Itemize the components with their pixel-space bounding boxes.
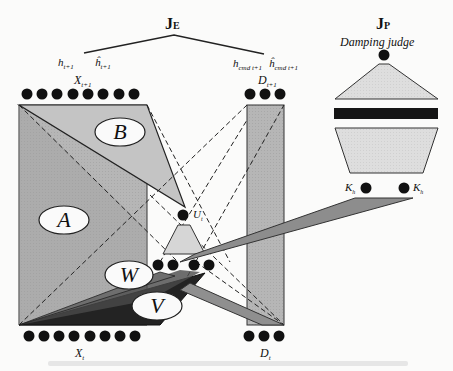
je-connector <box>84 35 264 54</box>
k-left-label: Kh <box>345 182 355 195</box>
h-label-1: ht+1 <box>58 57 74 71</box>
k-node-right <box>399 183 410 194</box>
node-u-t <box>178 210 189 221</box>
k-right-label: Kh <box>413 182 423 195</box>
u-triangle <box>163 225 205 254</box>
network-diagram <box>0 0 453 371</box>
k-wedge <box>180 198 413 262</box>
region-w-label: W <box>120 264 138 286</box>
region-a-label: A <box>57 209 70 231</box>
h-cmd-label: hcmd t+1 <box>233 58 262 72</box>
damping-node <box>379 50 390 61</box>
d-next-label: Dt+1 <box>258 74 277 89</box>
nodes-x-t <box>24 331 141 342</box>
h-hat-label-1: ĥt+1 <box>95 57 111 71</box>
x-next-label: Xt+1 <box>74 74 92 89</box>
d-column-block <box>247 105 284 325</box>
jp-hidden-bar <box>334 108 438 119</box>
k-node-left <box>361 183 372 194</box>
jp-bottom-trapezoid <box>335 128 438 173</box>
u-t-label: Ut <box>193 209 203 222</box>
nodes-d-next <box>245 89 286 100</box>
h-hat-cmd-label: ĥcmd t+1 <box>269 58 298 72</box>
region-b-label: B <box>113 121 126 143</box>
region-v-label: V <box>150 295 163 317</box>
je-label: JE <box>165 16 180 32</box>
jp-network <box>334 50 438 194</box>
nodes-d-t <box>244 331 285 342</box>
jp-label: JP <box>376 16 390 32</box>
jp-top-trapezoid <box>335 64 438 99</box>
damping-judge-label: Damping judge <box>340 36 414 48</box>
figure-caption-faint <box>48 361 408 366</box>
nodes-x-next <box>22 89 140 100</box>
diagram-canvas: JE JP Damping judge ht+1 ĥt+1 hcmd t+1 ĥ… <box>0 0 453 371</box>
